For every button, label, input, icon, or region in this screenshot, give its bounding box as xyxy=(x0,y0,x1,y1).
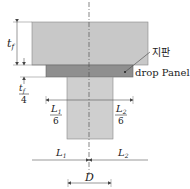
slab xyxy=(32,22,148,65)
column xyxy=(67,77,113,139)
drop-panel-label: drop Panel xyxy=(135,67,190,78)
span-right-label: L2 xyxy=(117,147,129,159)
left-extent-den: 6 xyxy=(53,116,59,126)
left-extent-label: L1 xyxy=(50,103,61,115)
right-extent-den: 6 xyxy=(118,116,124,126)
column-width-label: D xyxy=(84,171,94,184)
drop-thickness-label-num: tf xyxy=(19,83,27,95)
drop-panel xyxy=(46,65,133,77)
right-extent-label: L2 xyxy=(115,103,127,115)
drop-thickness-label-den: 4 xyxy=(21,95,27,105)
korean-drop-panel-label: 지판 xyxy=(152,47,170,58)
drop-panel-diagram: tf tf 4 L1 6 L2 6 L1 L2 D 지판 drop Panel xyxy=(0,0,190,189)
span-left-label: L1 xyxy=(55,147,66,159)
slab-thickness-label: tf xyxy=(7,37,15,51)
